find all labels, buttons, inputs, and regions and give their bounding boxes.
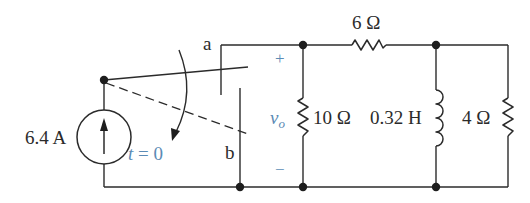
inductor-0-32-h (436, 90, 443, 146)
resistor-10-ohm (298, 98, 308, 136)
r-load-label: 4 Ω (462, 107, 490, 128)
resistor-6-ohm (352, 40, 386, 50)
node-bottom-b (236, 183, 244, 191)
terminal-b-label: b (225, 142, 235, 163)
node-top-left (299, 41, 307, 49)
vo-minus-sign: − (275, 160, 285, 179)
current-source (77, 110, 131, 164)
source-value-label: 6.4 A (25, 127, 66, 148)
switch-arm-position-a (104, 67, 248, 80)
vo-label: vo (270, 107, 285, 131)
vo-plus-sign: + (275, 49, 285, 68)
arrowhead-icon (171, 128, 180, 141)
node-pivot (100, 76, 108, 84)
wires (104, 45, 508, 187)
node-bottom-left (299, 183, 307, 191)
node-bottom-right (432, 183, 440, 191)
resistor-4-ohm (503, 98, 513, 136)
r-series-label: 6 Ω (352, 12, 380, 33)
current-arrow-up-icon (100, 118, 108, 131)
node-top-right (432, 41, 440, 49)
inductor-label: 0.32 H (370, 107, 422, 128)
r-shunt-label: 10 Ω (313, 107, 351, 128)
terminal-a-label: a (203, 33, 212, 54)
switch (104, 50, 248, 141)
switch-arm-position-b (106, 83, 248, 134)
switch-time-label: t = 0 (128, 143, 163, 164)
switch-motion-arrow (176, 50, 187, 132)
circuit-diagram: 6.4 A a b t = 0 + − vo 6 Ω 10 Ω 0.32 H 4… (0, 0, 530, 203)
